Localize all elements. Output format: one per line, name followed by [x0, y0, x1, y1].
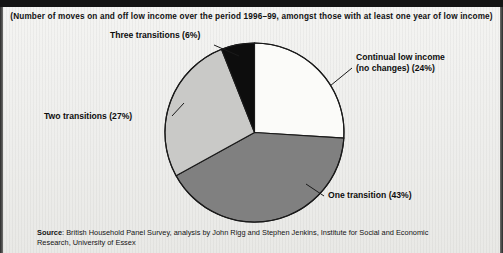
leader-line-continual [330, 68, 352, 86]
pie-label-continual-line2: (no changes) (24%) [356, 63, 445, 74]
pie-chart: Three transitions (6%) Continual low inc… [0, 0, 503, 253]
figure-source-text: : British Household Panel Survey, analys… [37, 228, 428, 247]
pie-slice-continual-low-income [255, 43, 345, 138]
pie-label-one-transition: One transition (43%) [328, 190, 412, 201]
pie-label-continual-low-income: Continual low income (no changes) (24%) [356, 52, 445, 74]
pie-label-three-transitions: Three transitions (6%) [110, 30, 200, 41]
pie-label-continual-line1: Continual low income [356, 52, 445, 63]
figure-source-prefix: Source [37, 228, 62, 237]
pie-chart-svg [0, 0, 503, 253]
figure-source: Source: British Household Panel Survey, … [37, 228, 457, 248]
figure-panel: (Number of moves on and off low income o… [0, 0, 503, 253]
pie-label-two-transitions: Two transitions (27%) [44, 111, 132, 122]
